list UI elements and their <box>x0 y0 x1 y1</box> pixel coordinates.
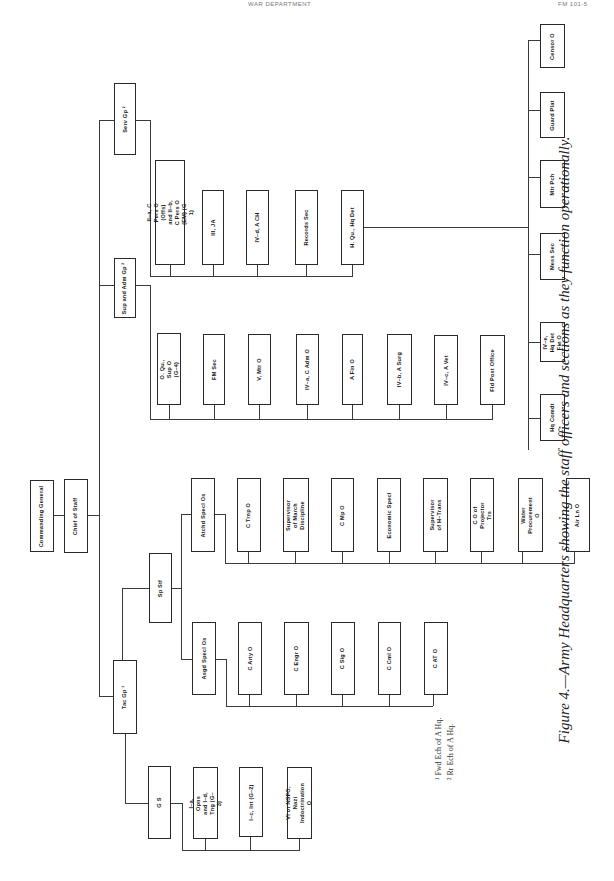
asgd-child-label: C AT O <box>432 649 439 669</box>
connector <box>433 695 434 706</box>
connector <box>170 265 171 276</box>
hq-qu-det-label: H. Qu., Hq Det <box>349 207 356 247</box>
gs-child-label: I–c, Int (G–2) <box>248 784 255 820</box>
atchd-specl-os-label: Atchd Specl Os <box>200 493 207 537</box>
sup-child-box: A Fin O <box>342 334 363 405</box>
connector <box>181 514 191 515</box>
connector <box>299 839 300 850</box>
connector <box>307 405 308 419</box>
atchd-specl-os-box: Atchd Specl Os <box>191 478 215 552</box>
connector <box>249 695 250 706</box>
asgd-child-box: C Sig O <box>331 622 355 695</box>
connector <box>322 276 353 277</box>
gs-bus <box>182 850 300 851</box>
commanding-general-box: Commanding General <box>30 480 54 552</box>
chief-of-staff-box: Chief of Staff <box>64 479 88 553</box>
gs-child-label: I–a, Opns and I–d, Tng (G–3) <box>188 792 223 815</box>
connector <box>435 552 436 563</box>
atchd-child-box: C O of Projector Trs <box>470 478 494 552</box>
page-header-center: WAR DEPARTMENT <box>248 1 311 7</box>
sup-child-label: IV–c, A Vet <box>443 355 450 385</box>
g-s-box: G S <box>148 766 171 839</box>
sup-child-box: V, Mtr O <box>248 334 271 405</box>
connector <box>342 552 343 563</box>
connector <box>522 552 523 563</box>
connector <box>528 40 540 41</box>
connector <box>446 405 447 419</box>
atchd-child-label: C Trnp O <box>246 502 253 527</box>
commanding-general-label: Commanding General <box>39 485 46 547</box>
atchd-child-label: Air Ln O <box>575 503 582 527</box>
connector <box>181 659 192 660</box>
sup-bus <box>150 285 151 419</box>
connector <box>528 418 540 419</box>
sup-child-box: FM Sec <box>203 334 225 405</box>
connector <box>99 285 114 286</box>
serv-gp-label: Serv Gp ² <box>122 106 129 133</box>
hq-det-child-label: Mtr Pch <box>549 173 556 195</box>
connector <box>389 552 390 563</box>
connector <box>296 695 297 706</box>
asgd-bus <box>226 706 433 707</box>
asgd-child-box: C AT O <box>424 622 448 695</box>
connector <box>248 552 249 563</box>
sup-child-box: O. Qu., Sup O (G–4) <box>157 333 181 405</box>
serv-child-label: II–a, C Pers O (Offs) and II–b, C Pers O… <box>146 199 195 227</box>
sup-child-label: A Fin O <box>349 359 356 380</box>
serv-child-box: IV–d, A CH <box>246 190 269 265</box>
asgd-child-label: C Engr O <box>293 646 300 672</box>
sp-stf-bus <box>181 514 182 660</box>
sup-child-label: V, Mtr O <box>256 358 263 381</box>
atchd-child-label: C O of Projector Trs <box>472 502 493 528</box>
connector <box>150 276 322 277</box>
footnote-fwd-ech: ¹ Fwd Ech of A Hq. <box>434 718 443 780</box>
asgd-child-box: C Cml O <box>378 622 401 695</box>
gs-child-box: VI or NSFO, Nazi Indoctrination O <box>287 767 312 839</box>
connector <box>528 418 529 432</box>
connector <box>306 265 307 276</box>
sup-adm-gp-box: Sup and Adm Gp ² <box>114 258 136 318</box>
atchd-child-box: Supervisor of March Discipline <box>283 478 309 552</box>
connector <box>214 405 215 419</box>
connector <box>492 405 493 419</box>
atchd-child-label: C Mp O <box>339 505 346 526</box>
connector <box>528 254 540 255</box>
hq-det-child-box: Guard Plat <box>540 92 565 138</box>
serv-child-label: IV–d, A CH <box>254 212 261 242</box>
connector <box>399 405 400 419</box>
connector <box>169 405 170 419</box>
g-s-label: G S <box>156 797 163 807</box>
connector <box>122 588 149 589</box>
asgd-child-box: C Engr O <box>284 622 309 695</box>
hq-det-child-label: Guard Plat <box>549 100 556 130</box>
connector <box>125 803 148 804</box>
atchd-child-box: Water Procurement O <box>518 478 543 552</box>
serv-child-box: III, JA <box>202 190 224 265</box>
connector <box>122 588 123 660</box>
chief-of-staff-label: Chief of Staff <box>73 497 80 535</box>
connector <box>574 552 575 563</box>
atchd-bus <box>225 563 522 564</box>
tac-gp-box: Tac Gp ¹ <box>113 660 137 734</box>
atchd-child-box: Economic Specl <box>377 478 401 552</box>
gs-child-box: I–c, Int (G–2) <box>239 767 263 837</box>
asgd-specl-os-box: Asgd Specl Os <box>192 622 216 695</box>
hq-det-child-label: Hq Comdt <box>549 403 556 431</box>
atchd-child-box: C Mp O <box>331 478 354 552</box>
connector <box>150 419 396 420</box>
serv-child-box: Records Sec <box>295 190 318 265</box>
atchd-child-label: Water Procurement O <box>520 497 541 534</box>
connector <box>88 515 99 516</box>
atchd-child-box: C Trnp O <box>237 478 261 552</box>
connector <box>136 120 150 121</box>
connector <box>125 734 126 803</box>
hq-det-child-label: Censor O <box>549 33 556 60</box>
atchd-child-box: Supervisor of H–Trans <box>423 478 448 552</box>
connector <box>481 552 482 563</box>
serv-child-label: Records Sec <box>303 209 310 245</box>
connector <box>54 515 64 516</box>
connector <box>171 803 182 804</box>
asgd-child-label: C Arty O <box>247 646 254 670</box>
sup-child-label: IV–a, C Adm O <box>304 349 311 390</box>
asgd-child-label: C Sig O <box>339 648 346 670</box>
